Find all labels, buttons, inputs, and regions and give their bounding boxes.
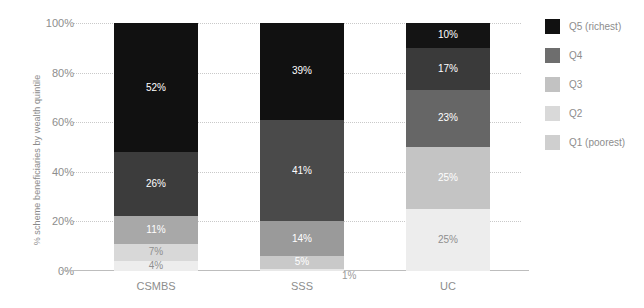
- segment-value-label: 10%: [438, 30, 458, 40]
- x-axis-label-csmbs: CSMBS: [114, 280, 198, 292]
- segment-csmbs-q4[interactable]: 26%: [114, 152, 198, 216]
- y-axis-tick-label: 100%: [46, 17, 74, 29]
- x-axis-label-uc: UC: [406, 280, 490, 292]
- segment-value-label: 1%: [342, 271, 356, 281]
- x-axis-label-sss: SSS: [260, 280, 344, 292]
- legend: Q5 (richest)Q4Q3Q2Q1 (poorest): [545, 18, 644, 163]
- segment-uc-q4[interactable]: 17%: [406, 48, 490, 90]
- y-axis-tick-label: 40%: [52, 166, 74, 178]
- segment-sss-q4[interactable]: 41%: [260, 120, 344, 222]
- segment-value-label: 25%: [438, 173, 458, 183]
- segment-uc-q3[interactable]: 23%: [406, 90, 490, 147]
- legend-label: Q1 (poorest): [569, 137, 625, 148]
- segment-uc-q2[interactable]: 25%: [406, 147, 490, 209]
- segment-value-label: 4%: [149, 261, 163, 271]
- segment-value-label: 39%: [292, 66, 312, 76]
- legend-item[interactable]: Q1 (poorest): [545, 134, 644, 150]
- legend-label: Q5 (richest): [569, 21, 621, 32]
- segment-value-label: 11%: [146, 225, 165, 235]
- legend-item[interactable]: Q3: [545, 76, 644, 92]
- segment-value-label: 14%: [292, 234, 312, 244]
- segment-csmbs-q1[interactable]: 4%: [114, 261, 198, 271]
- segment-sss-q5[interactable]: 39%: [260, 23, 344, 120]
- legend-swatch-icon: [545, 77, 560, 92]
- stacked-bar-chart: % scheme beneficiaries by wealth quintil…: [0, 0, 644, 308]
- segment-csmbs-q3[interactable]: 11%: [114, 216, 198, 243]
- segment-sss-q1[interactable]: 1%: [260, 269, 344, 271]
- plot-area: 0%20%40%60%80%100% 4%7%11%26%52%CSMBS1%5…: [83, 23, 521, 271]
- segment-value-label: 17%: [438, 64, 458, 74]
- y-axis-tick-label: 0%: [58, 265, 74, 277]
- legend-label: Q3: [569, 79, 582, 90]
- segment-value-label: 41%: [292, 166, 312, 176]
- segment-value-label: 5%: [295, 257, 309, 267]
- y-axis-tick-label: 80%: [52, 67, 74, 79]
- bar-uc[interactable]: 25%25%23%17%10%UC: [406, 23, 490, 271]
- segment-value-label: 25%: [438, 235, 458, 245]
- segment-uc-q1[interactable]: 25%: [406, 209, 490, 271]
- segment-csmbs-q5[interactable]: 52%: [114, 23, 198, 152]
- segment-sss-q2[interactable]: 5%: [260, 256, 344, 268]
- segment-value-label: 26%: [146, 179, 166, 189]
- legend-item[interactable]: Q4: [545, 47, 644, 63]
- segment-value-label: 23%: [438, 113, 458, 123]
- legend-item[interactable]: Q5 (richest): [545, 18, 644, 34]
- legend-label: Q2: [569, 108, 582, 119]
- segment-uc-q5[interactable]: 10%: [406, 23, 490, 48]
- segment-sss-q3[interactable]: 14%: [260, 221, 344, 256]
- legend-swatch-icon: [545, 19, 560, 34]
- segment-csmbs-q2[interactable]: 7%: [114, 244, 198, 261]
- legend-item[interactable]: Q2: [545, 105, 644, 121]
- y-axis-tick-label: 60%: [52, 116, 74, 128]
- bar-csmbs[interactable]: 4%7%11%26%52%CSMBS: [114, 23, 198, 271]
- legend-label: Q4: [569, 50, 582, 61]
- segment-value-label: 52%: [146, 83, 166, 93]
- y-axis-title: % scheme beneficiaries by wealth quintil…: [32, 35, 42, 285]
- segment-value-label: 7%: [149, 247, 163, 257]
- legend-swatch-icon: [545, 135, 560, 150]
- y-axis-tick-label: 20%: [52, 215, 74, 227]
- legend-swatch-icon: [545, 48, 560, 63]
- bar-sss[interactable]: 1%5%14%41%39%SSS: [260, 23, 344, 271]
- legend-swatch-icon: [545, 106, 560, 121]
